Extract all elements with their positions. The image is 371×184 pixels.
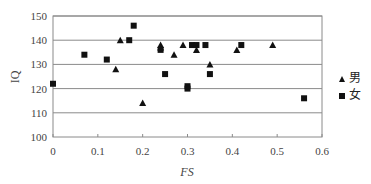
plot-frame	[53, 16, 322, 137]
y-axis-title: IQ	[8, 70, 22, 83]
data-point-square	[104, 57, 110, 63]
data-point-square	[158, 47, 164, 53]
data-point-square	[81, 52, 87, 58]
legend-item-male: 男	[339, 70, 361, 87]
data-point-square	[50, 81, 56, 87]
legend: 男 女	[339, 70, 361, 104]
legend-label: 女	[349, 87, 361, 104]
square-marker-icon	[339, 93, 345, 99]
x-tick-label: 0.4	[225, 145, 239, 157]
data-point-triangle	[180, 42, 187, 49]
data-point-triangle	[112, 66, 119, 73]
y-axis-ticks: 100110120130140150	[31, 10, 48, 143]
y-tick-label: 110	[31, 107, 48, 119]
data-point-triangle	[171, 51, 178, 58]
data-point-square	[193, 42, 199, 48]
triangle-marker-icon	[339, 76, 345, 82]
scatter-chart: 100110120130140150 00.10.20.30.40.50.6 I…	[0, 0, 371, 184]
x-tick-label: 0	[50, 145, 56, 157]
data-point-square	[162, 71, 168, 77]
data-point-square	[207, 71, 213, 77]
x-tick-label: 0.6	[315, 145, 329, 157]
legend-item-female: 女	[339, 87, 361, 104]
data-point-triangle	[139, 100, 146, 107]
x-tick-label: 0.5	[270, 145, 284, 157]
legend-label: 男	[349, 70, 361, 87]
data-point-square	[126, 37, 132, 43]
y-tick-label: 150	[31, 10, 48, 22]
x-tick-label: 0.3	[181, 145, 195, 157]
y-tick-label: 100	[31, 131, 48, 143]
data-point-square	[202, 42, 208, 48]
y-tick-label: 120	[31, 83, 48, 95]
gridlines	[53, 16, 322, 113]
data-point-square	[238, 42, 244, 48]
x-tick-label: 0.2	[136, 145, 150, 157]
data-point-square	[185, 86, 191, 92]
data-point-triangle	[269, 42, 276, 49]
data-point-square	[131, 23, 137, 29]
x-axis-title: FS	[179, 165, 193, 179]
data-point-square	[301, 95, 307, 101]
x-tick-label: 0.1	[91, 145, 105, 157]
x-axis-ticks: 00.10.20.30.40.50.6	[50, 145, 329, 157]
y-tick-label: 140	[31, 34, 48, 46]
y-tick-label: 130	[31, 58, 48, 70]
